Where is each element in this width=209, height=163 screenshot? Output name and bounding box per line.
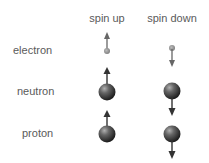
proton-spin-up <box>99 110 116 143</box>
electron-spin-up <box>104 32 110 54</box>
neutron-sphere-icon <box>99 84 116 101</box>
neutron-spin-up <box>99 67 116 101</box>
proton-spin-down <box>164 126 181 160</box>
neutron-sphere-icon <box>164 83 181 100</box>
electron-spin-down <box>169 45 175 67</box>
proton-sphere-icon <box>99 126 116 143</box>
neutron-spin-down <box>164 83 181 117</box>
proton-sphere-icon <box>164 126 181 143</box>
spin-diagram <box>0 0 209 163</box>
electron-icon <box>104 48 110 54</box>
